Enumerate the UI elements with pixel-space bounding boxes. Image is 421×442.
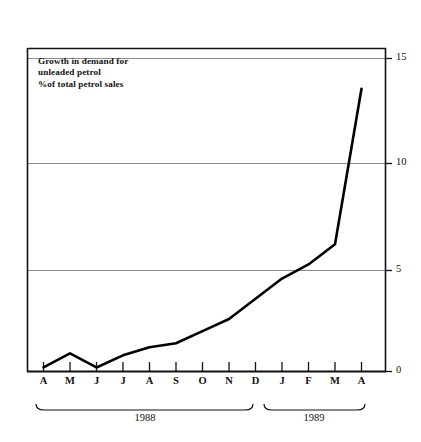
period-label-1989: 1989 (293, 412, 335, 423)
x-axis-label-9: J (274, 375, 290, 386)
chart-subtitle: %of total petrol sales (38, 79, 248, 90)
x-axis-label-5: S (168, 375, 184, 386)
chart-title-line-2: unleaded petrol (38, 67, 248, 78)
x-axis-label-12: A (354, 375, 370, 386)
x-axis-label-0: A (36, 375, 52, 386)
y-axis-label-15: 15 (396, 51, 407, 62)
chart-figure: Growth in demand for unleaded petrol %of… (0, 0, 421, 442)
x-axis-label-7: N (221, 375, 237, 386)
x-axis-label-4: A (142, 375, 158, 386)
x-axis-label-1: M (62, 375, 78, 386)
y-axis-label-10: 10 (396, 156, 407, 167)
x-axis-label-6: O (195, 375, 211, 386)
x-axis-label-11: M (327, 375, 343, 386)
y-axis-label-5: 5 (396, 263, 401, 274)
x-axis-label-2: J (89, 375, 105, 386)
x-axis-label-3: J (115, 375, 131, 386)
chart-title-line-1: Growth in demand for (38, 56, 248, 67)
chart-title-block: Growth in demand for unleaded petrol %of… (38, 56, 248, 90)
period-label-1988: 1988 (124, 412, 166, 423)
x-axis-label-8: D (248, 375, 264, 386)
x-axis-label-10: F (301, 375, 317, 386)
y-axis-label-0: 0 (396, 364, 401, 375)
